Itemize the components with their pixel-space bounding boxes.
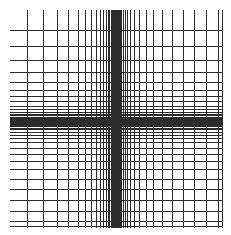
figure-root bbox=[0, 0, 231, 235]
grid-plot-area bbox=[0, 0, 231, 235]
